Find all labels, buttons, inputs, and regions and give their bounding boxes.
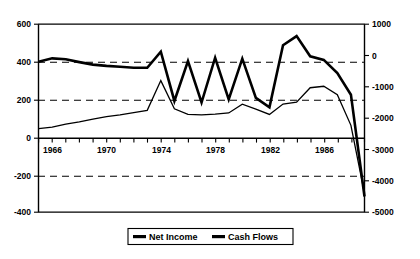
- chart-container: 600 400 200 0 -200 -400 1000 0 -1000 -20…: [0, 0, 420, 259]
- x-label-1966: 1966: [43, 145, 62, 155]
- left-label-minus400: -400: [14, 207, 31, 217]
- x-label-1982: 1982: [261, 145, 280, 155]
- left-label-0: 0: [26, 133, 31, 143]
- x-label-1970: 1970: [97, 145, 116, 155]
- series-line-cash-flows: [39, 36, 365, 196]
- right-label-minus4000: -4000: [372, 176, 394, 186]
- gridlines: [38, 62, 365, 176]
- right-axis-ticks: [365, 24, 369, 212]
- x-axis-labels: 1966 1970 1974 1978 1982 1986: [43, 145, 334, 155]
- right-label-minus3000: -3000: [372, 145, 394, 155]
- x-label-1974: 1974: [152, 145, 171, 155]
- chart-legend: Net Income Cash Flows: [128, 229, 293, 245]
- right-label-minus5000: -5000: [372, 207, 394, 217]
- left-label-200: 200: [17, 95, 31, 105]
- left-label-400: 400: [17, 57, 31, 67]
- left-label-minus200: -200: [14, 171, 31, 181]
- right-axis-labels: 1000 0 -1000 -2000 -3000 -4000 -5000: [372, 19, 394, 217]
- right-label-1000: 1000: [372, 19, 391, 29]
- right-label-minus1000: -1000: [372, 82, 394, 92]
- x-label-1986: 1986: [315, 145, 334, 155]
- right-label-0: 0: [372, 51, 377, 61]
- left-axis-labels: 600 400 200 0 -200 -400: [14, 19, 31, 217]
- line-chart: 600 400 200 0 -200 -400 1000 0 -1000 -20…: [0, 0, 420, 259]
- left-label-600: 600: [17, 19, 31, 29]
- right-label-minus2000: -2000: [372, 113, 394, 123]
- data-series-group: [39, 36, 365, 196]
- plot-frame: [38, 24, 365, 212]
- legend-label-net-income: Net Income: [149, 232, 198, 242]
- legend-label-cash-flows: Cash Flows: [228, 232, 278, 242]
- left-axis-ticks: [34, 24, 38, 212]
- x-label-1978: 1978: [206, 145, 225, 155]
